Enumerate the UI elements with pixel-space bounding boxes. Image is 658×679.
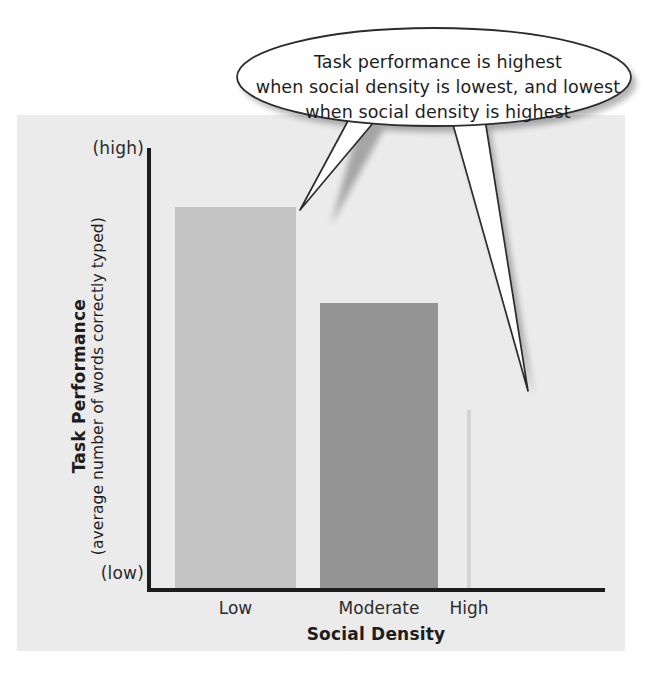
plot-area <box>151 148 605 588</box>
bar-moderate <box>320 303 438 588</box>
x-axis-title: Social Density <box>147 624 605 644</box>
y-tick-high: (high) <box>92 138 144 158</box>
bar-low <box>175 207 296 588</box>
callout-line-3: when social density is highest <box>252 100 624 125</box>
x-tick-high: High <box>399 598 539 618</box>
callout-line-1: Task performance is highest <box>252 50 624 75</box>
x-axis-line <box>147 588 605 592</box>
y-tick-low: (low) <box>101 563 144 583</box>
callout-text: Task performance is highest when social … <box>252 50 624 125</box>
callout-line-2: when social density is lowest, and lowes… <box>252 75 624 100</box>
bar-high <box>467 410 471 588</box>
x-tick-low: Low <box>166 598 306 618</box>
